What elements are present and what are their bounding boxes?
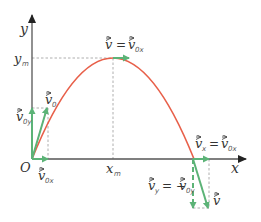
v0y-sub: 0y	[23, 118, 32, 126]
final-vx-equation: v x = v 0x	[195, 136, 237, 153]
v0x-label: v 0x	[38, 168, 54, 185]
v0-label: v 0	[45, 92, 57, 109]
x-axis-label: x	[231, 160, 239, 176]
y-axis-label: y	[19, 21, 29, 37]
v0-sub: 0	[52, 101, 57, 109]
final-vx-rhs-sub: 0x	[228, 145, 237, 153]
ym-sub: m	[22, 60, 29, 68]
final-vx-lhs-sub: x	[201, 145, 207, 153]
final-v-main: v	[213, 193, 221, 208]
ym-main: y	[13, 51, 22, 66]
top-velocity-equation: v = v 0x	[105, 37, 144, 54]
xm-main: x	[106, 161, 114, 176]
v0-arrow	[32, 108, 47, 159]
xm-sub: m	[114, 170, 121, 178]
v0x-sub: 0x	[45, 177, 54, 185]
final-vy-lhs-sub: y	[154, 187, 160, 195]
origin-label: O	[20, 160, 31, 175]
v0y-label: v 0y	[16, 109, 32, 126]
top-rhs-sub: 0x	[135, 46, 144, 54]
v-final-arrow	[193, 159, 208, 208]
final-vy-rhs-sub: 0y	[186, 187, 195, 195]
top-eq: =	[116, 38, 126, 52]
xm-label: x m	[106, 161, 121, 178]
top-lhs: v	[105, 37, 113, 52]
final-v-label: v	[213, 193, 221, 208]
final-vx-eq: =	[209, 137, 219, 151]
ym-label: y m	[13, 51, 29, 68]
final-vy-equation: v y = − v 0y	[148, 178, 195, 195]
projectile-motion-diagram: y x O y m x m v 0 v 0y v 0x v = v 0x v	[0, 0, 261, 222]
